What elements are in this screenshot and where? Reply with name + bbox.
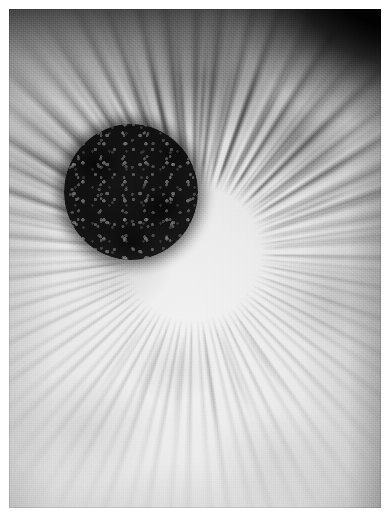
photograph-plate (9, 9, 381, 508)
image-description: Black-and-white macro photograph of a hu… (0, 0, 1, 1)
photograph-frame: Black-and-white macro photograph of a hu… (0, 0, 391, 513)
plate-edge-hairline (9, 9, 381, 508)
